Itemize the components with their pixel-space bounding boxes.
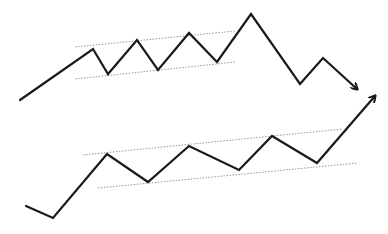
lower-channel-top-line <box>83 129 343 155</box>
upper-price-line-arrow-icon <box>20 14 357 100</box>
upper-channel-top-line <box>75 31 235 47</box>
lower-price-line-arrow-icon <box>26 96 375 218</box>
pattern-diagram <box>0 0 388 234</box>
lower-pattern <box>26 96 375 218</box>
upper-pattern <box>20 14 357 100</box>
